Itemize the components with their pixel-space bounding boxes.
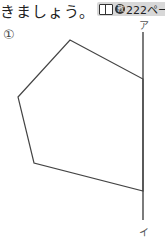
figure-diagram: [0, 0, 165, 240]
label-i: イ: [139, 224, 149, 239]
pentagon-shape: [18, 40, 143, 191]
label-a: ア: [139, 17, 149, 32]
